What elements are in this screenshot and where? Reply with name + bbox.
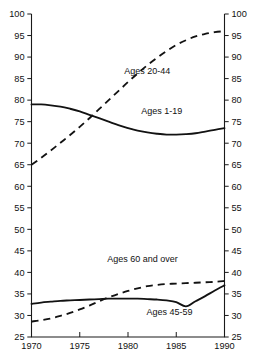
y-tick-label-left: 50 [14,225,24,235]
y-tick-label-left: 85 [14,74,24,84]
y-tick-label-right: 100 [232,9,247,19]
y-tick-label-right: 90 [232,52,242,62]
x-tick-label: 1980 [118,341,138,351]
y-tick-label-right: 60 [232,182,242,192]
series-label-ages-60-and-over: Ages 60 and over [107,254,178,264]
x-tick-label: 1990 [214,341,234,351]
y-tick-label-right: 45 [232,246,242,256]
series-line-ages-45-59 [32,285,225,306]
y-tick-label-left: 65 [14,160,24,170]
y-tick-label-right: 35 [232,289,242,299]
y-tick-label-right: 95 [232,31,242,41]
series-label-ages-20-44: Ages 20-44 [124,66,170,76]
y-tick-label-right: 40 [232,268,242,278]
y-tick-label-left: 75 [14,117,24,127]
y-tick-label-right: 30 [232,311,242,321]
y-tick-label-right: 75 [232,117,242,127]
y-tick-label-left: 40 [14,268,24,278]
y-tick-label-right: 70 [232,139,242,149]
axis-frame [32,14,225,337]
x-tick-label: 1970 [21,341,41,351]
x-tick-label: 1975 [70,341,90,351]
y-tick-label-left: 70 [14,139,24,149]
y-tick-label-left: 30 [14,311,24,321]
y-tick-label-left: 100 [9,9,24,19]
footer-clipped-text [4,353,124,358]
y-tick-label-right: 85 [232,74,242,84]
line-chart: 2525303035354040454550505555606065657070… [0,0,256,358]
y-tick-label-right: 65 [232,160,242,170]
y-tick-label-left: 35 [14,289,24,299]
y-tick-label-right: 55 [232,203,242,213]
x-tick-label: 1985 [166,341,186,351]
series-label-ages-45-59: Ages 45-59 [146,307,192,317]
y-tick-label-left: 80 [14,95,24,105]
y-tick-label-right: 50 [232,225,242,235]
y-tick-label-left: 55 [14,203,24,213]
y-tick-label-left: 60 [14,182,24,192]
series-line-ages-20-44 [32,31,225,165]
y-tick-label-left: 95 [14,31,24,41]
y-tick-label-left: 90 [14,52,24,62]
chart-container: 2525303035354040454550505555606065657070… [0,0,256,358]
y-tick-label-right: 80 [232,95,242,105]
series-label-ages-1-19: Ages 1-19 [141,106,182,116]
series-line-ages-1-19 [32,104,225,134]
y-tick-label-left: 45 [14,246,24,256]
